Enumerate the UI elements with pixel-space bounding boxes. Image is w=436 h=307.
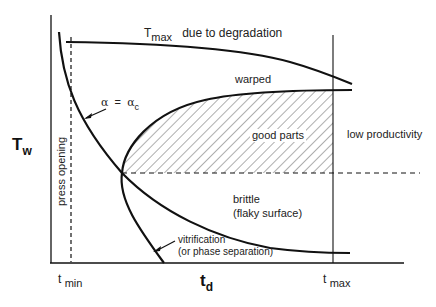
y-axis-label-sub: w — [22, 144, 31, 158]
gel-arrow-head — [84, 113, 92, 119]
gel-alpha: α — [101, 96, 108, 109]
tick-tmin: t min — [58, 273, 82, 285]
vitrification-label-line2: (or phase separation) — [178, 246, 273, 258]
region-brittle: brittle (flaky surface) — [233, 192, 302, 220]
tick-tmin-main: t — [58, 272, 61, 286]
y-axis-label-main: T — [12, 135, 22, 154]
tmax-curve-label-suffix: due to degradation — [182, 26, 282, 40]
gel-curve-label: α = αc — [101, 97, 139, 108]
tick-tmin-sub: min — [65, 277, 83, 289]
y-axis-label: Tw — [12, 136, 32, 153]
tmax-curve-label-sub: max — [151, 31, 172, 43]
tmax-degradation-curve — [66, 42, 352, 84]
vitrification-label-line1: vitrification — [178, 234, 273, 246]
region-brittle-line1: brittle — [233, 192, 302, 206]
tmax-curve-label: Tmax due to degradation — [144, 27, 282, 39]
vitrification-label: vitrification (or phase separation) — [178, 234, 273, 258]
region-low-productivity: low productivity — [347, 129, 422, 140]
x-axis-label: td — [200, 272, 213, 289]
tick-tmax-main: t — [323, 272, 326, 286]
gel-alpha-c-sub: c — [135, 102, 140, 112]
x-axis-label-main: t — [200, 271, 206, 290]
gel-alpha-c: α — [127, 96, 134, 109]
region-good-parts: good parts — [250, 129, 306, 142]
tick-tmax-sub: max — [330, 277, 351, 289]
gel-equals: = — [115, 96, 121, 108]
region-warped: warped — [235, 74, 271, 85]
tick-tmax: t max — [323, 273, 350, 285]
region-brittle-line2: (flaky surface) — [233, 206, 302, 220]
x-axis-label-sub: d — [206, 280, 213, 294]
press-opening-label: press opening — [56, 137, 67, 206]
